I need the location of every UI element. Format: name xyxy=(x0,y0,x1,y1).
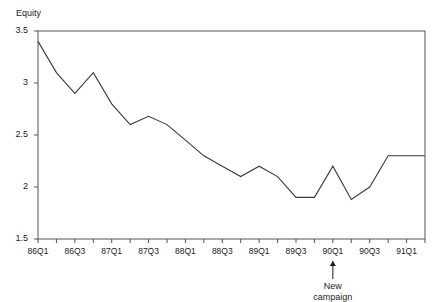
equity-series-line xyxy=(38,41,425,199)
y-tick-label: 2 xyxy=(4,182,28,191)
equity-line-chart: Equity 1.522.533.5 86Q186Q387Q187Q388Q18… xyxy=(0,0,439,302)
x-tick-label: 86Q1 xyxy=(18,247,58,256)
y-tick-label: 1.5 xyxy=(4,234,28,243)
plot-area xyxy=(0,0,439,302)
x-tick-label: 86Q3 xyxy=(55,247,95,256)
x-axis-ticks xyxy=(38,239,425,243)
plot-frame xyxy=(38,31,425,239)
y-axis-title: Equity xyxy=(16,8,41,18)
x-tick-label: 87Q3 xyxy=(129,247,169,256)
new-campaign-arrow-icon xyxy=(330,261,336,279)
x-tick-label: 90Q1 xyxy=(313,247,353,256)
x-tick-label: 87Q1 xyxy=(92,247,132,256)
x-tick-label: 91Q1 xyxy=(387,247,427,256)
y-tick-label: 3 xyxy=(4,78,28,87)
x-tick-label: 88Q3 xyxy=(202,247,242,256)
x-tick-label: 89Q3 xyxy=(276,247,316,256)
y-tick-label: 3.5 xyxy=(4,26,28,35)
annotation-line-1: New xyxy=(288,281,378,292)
x-tick-label: 88Q1 xyxy=(165,247,205,256)
x-tick-label: 90Q3 xyxy=(350,247,390,256)
y-axis-ticks xyxy=(34,31,38,239)
annotation-line-2: campaign xyxy=(288,292,378,302)
y-tick-label: 2.5 xyxy=(4,130,28,139)
x-tick-label: 89Q1 xyxy=(239,247,279,256)
